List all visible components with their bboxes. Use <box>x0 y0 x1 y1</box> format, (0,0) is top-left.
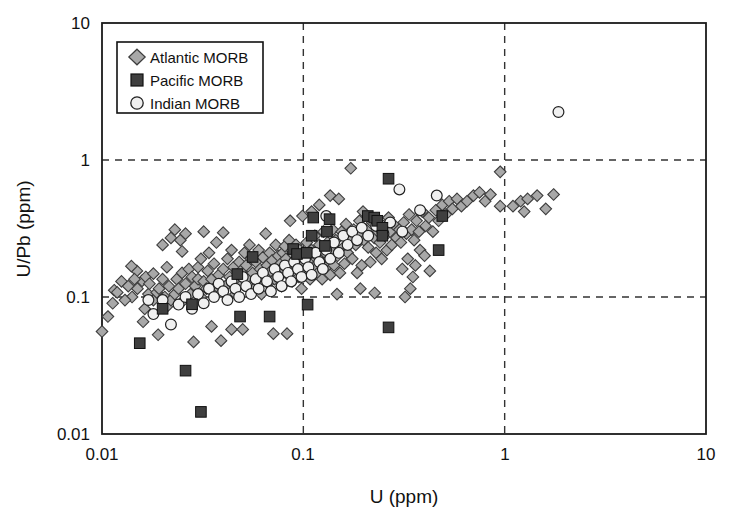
scatter-point <box>235 311 246 322</box>
legend-label-atlantic: Atlantic MORB <box>150 49 248 66</box>
scatter-point <box>292 249 303 260</box>
scatter-point <box>198 298 209 309</box>
scatter-point <box>415 205 426 216</box>
uranium-upb-scatter-plot: 10 1 0.1 0.01 0.01 0.1 1 10 U (ppm) U/Pb… <box>0 0 735 523</box>
scatter-point <box>333 247 344 258</box>
x-tick-0.1: 0.1 <box>291 445 315 464</box>
circle-marker-icon <box>131 97 143 109</box>
scatter-point <box>217 227 229 239</box>
scatter-point <box>352 235 363 246</box>
scatter-point <box>206 321 218 333</box>
scatter-point <box>188 336 200 348</box>
y-tick-1: 1 <box>81 151 90 170</box>
scatter-point <box>301 248 312 259</box>
scatter-point <box>296 272 307 283</box>
scatter-point <box>198 226 210 238</box>
scatter-point <box>187 299 198 310</box>
scatter-point <box>268 328 280 340</box>
scatter-point <box>306 269 317 280</box>
scatter-point <box>265 286 276 297</box>
scatter-plot-figure: 10 1 0.1 0.01 0.01 0.1 1 10 U (ppm) U/Pb… <box>0 0 735 523</box>
scatter-point <box>176 246 188 258</box>
scatter-point <box>397 226 408 237</box>
scatter-point <box>180 365 191 376</box>
scatter-point <box>324 214 335 225</box>
scatter-point <box>247 252 258 263</box>
scatter-point <box>102 311 114 323</box>
scatter-point <box>143 295 154 306</box>
scatter-point <box>553 107 564 118</box>
scatter-point <box>96 326 108 338</box>
scatter-point <box>152 329 164 341</box>
scatter-point <box>232 269 243 280</box>
scatter-point <box>331 288 343 300</box>
legend-label-pacific: Pacific MORB <box>150 72 243 89</box>
scatter-point <box>215 335 227 347</box>
scatter-point <box>363 230 374 241</box>
x-axis-tick-labels: 0.01 0.1 1 10 <box>85 445 715 464</box>
scatter-point <box>281 328 293 340</box>
y-axis-tick-labels: 10 1 0.1 0.01 <box>57 14 90 444</box>
scatter-point <box>396 263 408 275</box>
scatter-point <box>377 230 388 241</box>
scatter-point <box>317 264 328 275</box>
scatter-point <box>226 324 238 336</box>
scatter-point <box>286 276 297 287</box>
scatter-point <box>407 271 419 283</box>
scatter-point <box>548 189 560 201</box>
x-tick-0.01: 0.01 <box>85 445 118 464</box>
legend-label-indian: Indian MORB <box>150 95 240 112</box>
scatter-point <box>260 228 272 240</box>
scatter-point <box>157 304 168 315</box>
scatter-point <box>284 215 296 227</box>
square-marker-icon <box>131 74 143 86</box>
scatter-point <box>383 173 394 184</box>
scatter-point <box>302 299 313 310</box>
scatter-point <box>437 211 448 222</box>
scatter-point <box>394 184 405 195</box>
scatter-point <box>264 311 275 322</box>
scatter-point <box>424 265 436 277</box>
scatter-point <box>433 245 444 256</box>
x-axis-title: U (ppm) <box>370 486 439 507</box>
scatter-point <box>134 338 145 349</box>
y-tick-10: 10 <box>71 14 90 33</box>
scatter-point <box>306 230 317 241</box>
scatter-point <box>540 203 552 215</box>
scatter-point <box>262 276 273 287</box>
scatter-point <box>308 212 319 223</box>
scatter-point <box>196 407 207 418</box>
data-points <box>96 107 564 418</box>
scatter-point <box>137 316 149 328</box>
scatter-point <box>345 162 357 174</box>
scatter-point <box>161 261 173 273</box>
scatter-point <box>431 190 442 201</box>
scatter-point <box>355 283 367 295</box>
scatter-point <box>107 297 119 309</box>
y-tick-0.1: 0.1 <box>66 288 90 307</box>
scatter-point <box>296 283 308 295</box>
scatter-point <box>383 322 394 333</box>
scatter-point <box>237 324 249 336</box>
scatter-point <box>211 237 223 249</box>
y-tick-0.01: 0.01 <box>57 425 90 444</box>
x-tick-10: 10 <box>697 445 716 464</box>
scatter-point <box>157 239 169 251</box>
scatter-point <box>320 241 331 252</box>
y-axis-title: U/Pb (ppm) <box>13 180 34 277</box>
x-tick-1: 1 <box>500 445 509 464</box>
scatter-point <box>518 206 530 218</box>
scatter-point <box>222 295 233 306</box>
scatter-point <box>234 292 245 303</box>
scatter-point <box>322 226 333 237</box>
scatter-point <box>166 319 177 330</box>
legend: Atlantic MORB Pacific MORB Indian MORB <box>117 42 263 113</box>
